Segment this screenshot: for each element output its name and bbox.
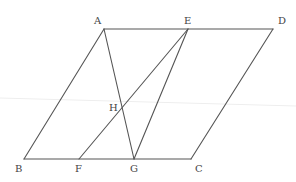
label-A: A: [93, 15, 102, 26]
label-E: E: [184, 15, 191, 26]
label-F: F: [75, 163, 82, 174]
segment-AB: [24, 29, 104, 159]
segment-EF: [79, 29, 188, 159]
geometry-diagram: A E D B F G C H: [0, 0, 296, 182]
scan-artifact-line: [0, 98, 296, 106]
label-B: B: [15, 163, 22, 174]
label-G: G: [130, 163, 138, 174]
label-D: D: [278, 15, 286, 26]
segment-EG: [134, 29, 188, 159]
label-C: C: [195, 163, 203, 174]
label-H: H: [109, 102, 118, 113]
segment-DC: [191, 29, 273, 159]
segment-AG: [104, 29, 134, 159]
